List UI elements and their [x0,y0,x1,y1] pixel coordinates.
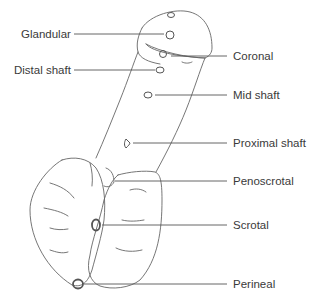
label-distal-shaft: Distal shaft [14,64,71,76]
label-penoscrotal: Penoscrotal [233,175,294,187]
label-coronal: Coronal [233,50,273,62]
shaft-right-edge [156,58,205,172]
label-glandular: Glandular [21,28,71,40]
left-testis [30,158,105,286]
shaft-left-edge [96,52,138,158]
label-scrotal: Scrotal [233,219,269,231]
label-perineal: Perineal [233,278,275,290]
right-testis [88,171,162,288]
label-proximal-shaft: Proximal shaft [233,137,306,149]
label-mid-shaft: Mid shaft [233,89,280,101]
anatomy-diagram [0,0,321,303]
